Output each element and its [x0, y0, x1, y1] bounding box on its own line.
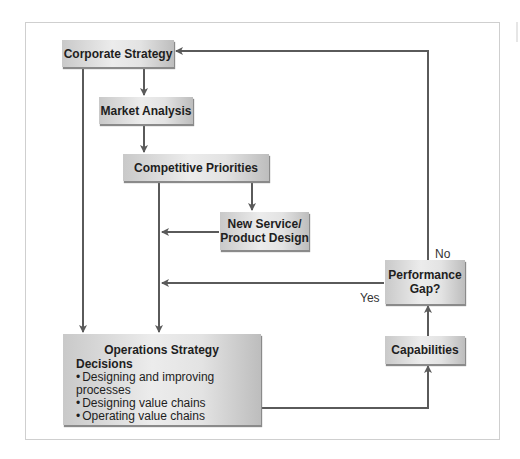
- node-capabilities: Capabilities: [385, 336, 465, 364]
- node-operations-strategy: Operations Strategy Decisions Designing …: [63, 334, 261, 425]
- node-label: Capabilities: [391, 343, 458, 357]
- node-label-line2: Gap?: [410, 282, 441, 296]
- node-new-service-product-design: New Service/ Product Design: [220, 212, 309, 250]
- node-label: Market Analysis: [101, 104, 192, 118]
- operations-decision-list: Designing and improving processes Design…: [76, 371, 261, 423]
- node-label: Competitive Priorities: [134, 161, 258, 175]
- edge-label-yes: Yes: [360, 291, 380, 305]
- edge-operations-to-capabilities: [262, 366, 428, 408]
- node-label-line1: New Service/: [227, 217, 301, 231]
- edge-label-no: No: [435, 247, 450, 261]
- operations-title: Operations Strategy: [76, 343, 261, 357]
- node-market-analysis: Market Analysis: [99, 97, 193, 124]
- node-corporate-strategy: Corporate Strategy: [62, 40, 174, 67]
- node-competitive-priorities: Competitive Priorities: [123, 154, 269, 181]
- node-label-line2: Product Design: [220, 231, 309, 245]
- node-label-line1: Performance: [388, 268, 461, 282]
- node-label: Corporate Strategy: [64, 47, 173, 61]
- decision-item: Operating value chains: [76, 410, 261, 423]
- operations-subtitle: Decisions: [76, 357, 261, 371]
- decision-item: Designing and improving processes: [76, 371, 261, 397]
- node-performance-gap: Performance Gap?: [385, 260, 465, 304]
